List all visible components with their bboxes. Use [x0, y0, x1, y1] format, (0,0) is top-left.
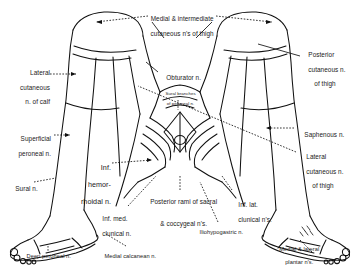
- label-line: clunical n's.: [238, 216, 271, 223]
- label-line: Inf. med.: [102, 215, 127, 222]
- label-line: rhoidal n.: [81, 197, 111, 206]
- label-line: plantar n's.: [285, 259, 313, 265]
- label-sural-branches-peroneal: Sural branches of peroneal n.: [152, 86, 204, 111]
- label-line: clunical n.: [102, 230, 131, 237]
- label-line: Sural branches: [165, 91, 195, 96]
- label-medial-lateral-plantar: Medial & lateral plantar n's.: [258, 240, 334, 272]
- label-line: Inf. lat.: [238, 201, 258, 208]
- label-line: Superficial: [21, 135, 51, 142]
- label-line: cutaneous: [20, 84, 50, 91]
- label-inferior-hemorrhoidal: Inf. hemor- rhoidal n.: [66, 156, 111, 215]
- label-line: of thigh: [314, 80, 335, 87]
- label-superficial-peroneal: Superficial peroneal n.: [6, 128, 51, 164]
- label-sural: Sural n.: [8, 178, 38, 200]
- label-line: Saphenous n.: [304, 131, 344, 138]
- label-line: Sural n.: [15, 185, 37, 192]
- label-line: peroneal n.: [18, 150, 51, 157]
- label-line: Medial & lateral: [279, 246, 319, 252]
- label-line: Lateral: [306, 153, 326, 160]
- label-line: Medial calcanean n.: [105, 253, 157, 259]
- label-line: Inf.: [101, 163, 111, 172]
- label-medial-calcanean: Medial calcanean n.: [98, 247, 156, 266]
- label-inferior-medial-clunical: Inf. med. clunical n.: [95, 208, 131, 244]
- label-saphenous: Saphenous n.: [297, 124, 344, 146]
- label-lateral-cutaneous-calf: Lateral cutaneous n. of calf: [4, 62, 50, 112]
- label-line: n. of calf: [25, 98, 50, 105]
- label-line: Iliohypogastric n.: [200, 229, 244, 235]
- label-line: of thigh: [312, 182, 333, 189]
- label-line: Posterior: [308, 51, 334, 58]
- label-line: hemor-: [88, 180, 111, 189]
- label-posterior-cutaneous-thigh: Posterior cutaneous n. of thigh: [301, 44, 346, 94]
- anatomical-figure: Medial & intermediate cutaneous n's of t…: [0, 0, 360, 273]
- label-line: Medial & intermediate: [151, 15, 214, 22]
- label-line: cutaneous n.: [308, 66, 345, 73]
- label-line: cutaneous n's of thigh: [151, 30, 214, 37]
- label-line: Posterior rami of sacral: [150, 198, 217, 205]
- label-iliohypogastric: Iliohypogastric n.: [193, 223, 243, 242]
- label-medial-intermediate-cutaneous-thigh: Medial & intermediate cutaneous n's of t…: [131, 8, 226, 44]
- label-lateral-cutaneous-thigh: Lateral cutaneous n. of thigh: [299, 146, 344, 196]
- label-deep-peroneal: Deep peroneal n.: [20, 247, 71, 266]
- label-line: cutaneous n.: [306, 168, 343, 175]
- label-line: Lateral: [30, 69, 50, 76]
- label-line: Deep peroneal n.: [27, 253, 71, 259]
- label-line: Obturator n.: [166, 74, 201, 81]
- label-line: of peroneal n.: [167, 101, 195, 106]
